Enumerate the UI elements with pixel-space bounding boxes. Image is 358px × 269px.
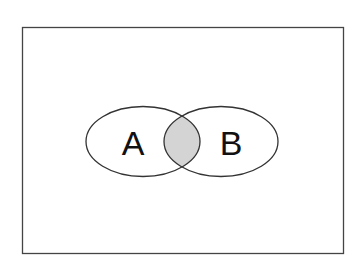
set-a-label: A xyxy=(122,124,145,162)
venn-diagram: A B xyxy=(0,0,358,269)
set-b-label: B xyxy=(220,124,243,162)
